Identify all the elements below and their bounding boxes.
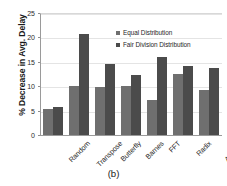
legend: Equal DistributionFair Division Distribu…	[116, 27, 191, 51]
y-axis-tick-label: 10	[13, 83, 35, 90]
bar-fair	[53, 107, 62, 135]
bar-equal	[95, 87, 104, 135]
legend-swatch-icon	[116, 31, 120, 35]
bar-equal	[199, 90, 208, 135]
bar-fair	[105, 64, 114, 135]
x-axis-tick-label: FFT	[167, 139, 182, 154]
x-axis-tick-label: Barnes	[143, 139, 165, 161]
x-axis-line	[40, 135, 222, 136]
y-axis-title: % Decrease in Avg. Delay	[17, 0, 27, 135]
bar-fair	[79, 34, 88, 135]
y-axis-tick-label: 0	[13, 132, 35, 139]
y-axis-tick-label: 15	[13, 58, 35, 65]
bar-group	[92, 13, 118, 135]
bar-equal	[43, 109, 52, 135]
x-axis-tick-label: Random	[67, 139, 92, 164]
x-axis-tick-label: Radix	[194, 139, 213, 158]
figure-caption: (b)	[0, 168, 227, 179]
legend-label: Fair Division Distribution	[123, 41, 191, 48]
bar-group	[40, 13, 66, 135]
y-axis-tick-label: 5	[13, 107, 35, 114]
legend-swatch-icon	[116, 43, 120, 47]
y-axis-tick-label: 25	[13, 10, 35, 17]
bar-equal	[69, 86, 78, 135]
bar-equal	[121, 86, 130, 135]
bar-fair	[183, 66, 192, 135]
legend-item: Equal Distribution	[116, 27, 191, 38]
legend-label: Equal Distribution	[123, 29, 172, 36]
bar-equal	[173, 74, 182, 135]
bar-fair	[131, 75, 140, 135]
bar-fair	[209, 68, 218, 135]
bar-equal	[147, 100, 156, 135]
bar-fair	[157, 57, 166, 135]
bar-group	[196, 13, 222, 135]
bar-chart-figure: % Decrease in Avg. Delay 0510152025 Rand…	[0, 0, 227, 186]
legend-item: Fair Division Distribution	[116, 39, 191, 50]
bar-group	[66, 13, 92, 135]
y-axis-tick-label: 20	[13, 34, 35, 41]
x-axis-tick-label: Average	[223, 139, 227, 164]
